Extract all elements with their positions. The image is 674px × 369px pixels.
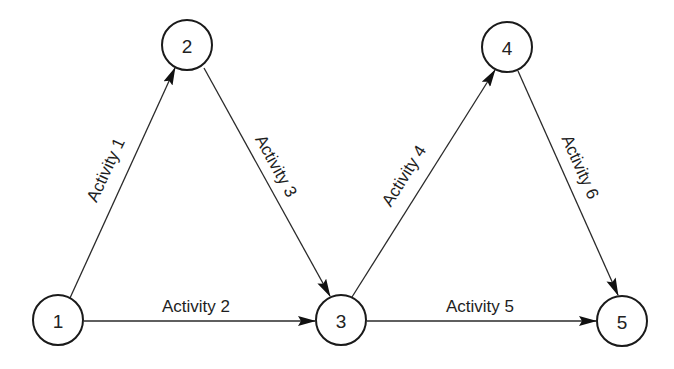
edges [70,68,618,321]
node-5-label: 5 [617,312,628,333]
node-4-label: 4 [502,38,513,59]
node-3[interactable]: 3 [316,295,366,345]
node-4[interactable]: 4 [482,22,532,72]
edge-activity-4[interactable] [352,70,495,297]
edge-label-activity-2: Activity 2 [162,297,230,316]
edge-activity-6[interactable] [518,71,618,295]
node-3-label: 3 [336,311,347,332]
edge-label-activity-5: Activity 5 [446,297,514,316]
edge-labels: Activity 1 Activity 2 Activity 3 Activit… [83,132,602,316]
node-2[interactable]: 2 [162,20,212,70]
node-2-label: 2 [182,36,193,57]
diagram-svg: Activity 1 Activity 2 Activity 3 Activit… [0,0,674,369]
node-1-label: 1 [53,311,64,332]
edge-label-activity-6: Activity 6 [557,132,602,202]
edge-label-activity-4: Activity 4 [378,142,430,210]
network-diagram: Activity 1 Activity 2 Activity 3 Activit… [0,0,674,369]
edge-activity-3[interactable] [204,68,330,296]
edge-label-activity-1: Activity 1 [83,135,129,205]
node-5[interactable]: 5 [597,296,647,346]
node-1[interactable]: 1 [33,295,83,345]
edge-activity-1[interactable] [70,68,175,298]
